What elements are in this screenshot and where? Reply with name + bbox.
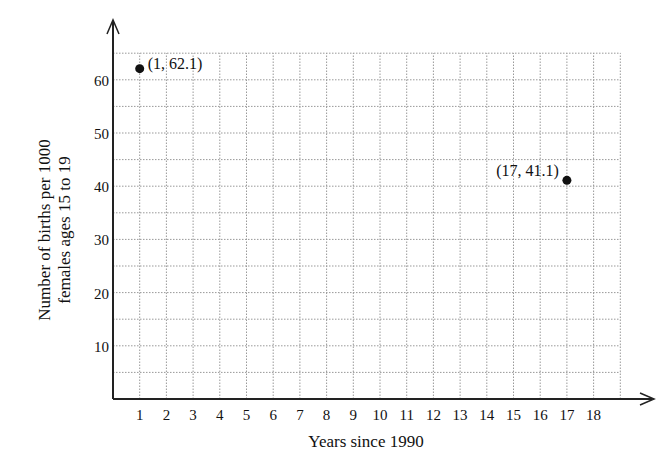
scatter-chart: 123456789101112131415161718 102030405060… bbox=[0, 0, 671, 474]
x-tick-label: 10 bbox=[373, 407, 388, 423]
y-axis-label-line-1: Number of births per 1000 bbox=[35, 139, 54, 320]
x-tick-label: 18 bbox=[586, 407, 601, 423]
x-tick-label: 8 bbox=[323, 407, 331, 423]
y-tick-label: 60 bbox=[94, 73, 109, 89]
data-point bbox=[562, 176, 571, 185]
x-tick-label: 9 bbox=[350, 407, 358, 423]
x-tick-label: 3 bbox=[189, 407, 197, 423]
data-point-label: (1, 62.1) bbox=[148, 55, 203, 73]
y-tick-label: 30 bbox=[94, 232, 109, 248]
x-tick-label: 16 bbox=[533, 407, 549, 423]
y-axis-label-line-2: females ages 15 to 19 bbox=[55, 156, 74, 303]
x-tick-label: 1 bbox=[136, 407, 144, 423]
x-tick-label: 2 bbox=[163, 407, 171, 423]
grid bbox=[113, 53, 620, 399]
data-point bbox=[135, 64, 144, 73]
x-axis-label: Years since 1990 bbox=[308, 432, 423, 451]
y-tick-label: 40 bbox=[94, 179, 109, 195]
y-axis-label: Number of births per 1000 females ages 1… bbox=[35, 139, 74, 320]
x-tick-label: 14 bbox=[479, 407, 495, 423]
x-tick-label: 5 bbox=[243, 407, 251, 423]
x-tick-label: 6 bbox=[269, 407, 277, 423]
y-tick-label: 50 bbox=[94, 126, 109, 142]
x-tick-label: 12 bbox=[426, 407, 441, 423]
x-tick-label: 4 bbox=[216, 407, 224, 423]
y-tick-label: 20 bbox=[94, 286, 109, 302]
x-tick-label: 15 bbox=[506, 407, 521, 423]
x-tick-labels: 123456789101112131415161718 bbox=[136, 407, 601, 423]
x-tick-label: 11 bbox=[399, 407, 413, 423]
x-tick-label: 7 bbox=[296, 407, 304, 423]
x-tick-label: 13 bbox=[453, 407, 468, 423]
y-tick-labels: 102030405060 bbox=[94, 73, 109, 355]
y-tick-label: 10 bbox=[94, 339, 109, 355]
data-point-label: (17, 41.1) bbox=[496, 162, 559, 180]
x-tick-label: 17 bbox=[559, 407, 575, 423]
